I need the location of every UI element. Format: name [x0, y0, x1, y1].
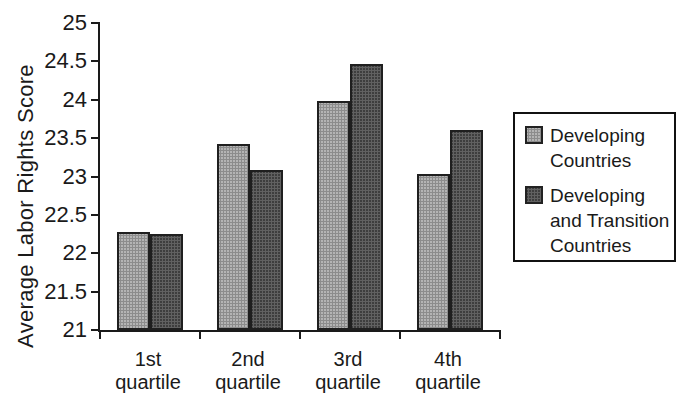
x-tick-label: 2nd quartile [205, 348, 291, 394]
x-tick [299, 330, 301, 339]
y-tick-label: 23.5 [27, 127, 87, 149]
y-tick-label: 21 [27, 319, 87, 341]
bar-series1-group1 [250, 170, 283, 330]
x-tick [199, 330, 201, 339]
y-tick [91, 137, 100, 139]
legend-item: Developing Countries [525, 123, 670, 173]
bar-series0-group2 [317, 101, 350, 330]
legend-label: Developing Countries [550, 123, 670, 173]
bar-series0-group0 [117, 232, 150, 330]
y-tick-label: 22.5 [27, 204, 87, 226]
legend-swatch-icon [525, 186, 543, 204]
y-tick-label: 24.5 [27, 50, 87, 72]
bar-series1-group2 [350, 64, 383, 330]
x-tick-label: 1st quartile [105, 348, 191, 394]
legend: Developing CountriesDeveloping and Trans… [513, 112, 676, 262]
y-tick-label: 22 [27, 242, 87, 264]
y-tick [91, 99, 100, 101]
bar-series0-group1 [217, 144, 250, 331]
y-tick-label: 21.5 [27, 281, 87, 303]
y-tick [91, 252, 100, 254]
y-tick [91, 60, 100, 62]
x-tick-label: 3rd quartile [305, 348, 391, 394]
x-tick [399, 330, 401, 339]
y-tick [91, 176, 100, 178]
bar-series1-group3 [450, 130, 483, 330]
y-tick [91, 291, 100, 293]
bar-series1-group0 [150, 234, 183, 330]
y-tick-label: 23 [27, 166, 87, 188]
y-tick [91, 22, 100, 24]
plot-area: 2121.52222.52323.52424.525 [98, 23, 500, 332]
legend-label: Developing and Transition Countries [550, 183, 670, 258]
legend-item: Developing and Transition Countries [525, 183, 670, 258]
y-tick-label: 25 [27, 12, 87, 34]
x-tick [99, 330, 101, 339]
legend-swatch-icon [525, 126, 543, 144]
y-tick [91, 214, 100, 216]
bar-chart: Average Labor Rights Score 2121.52222.52… [0, 0, 690, 410]
x-tick-label: 4th quartile [405, 348, 491, 394]
y-tick-label: 24 [27, 89, 87, 111]
bar-series0-group3 [417, 174, 450, 330]
x-tick [499, 330, 501, 339]
